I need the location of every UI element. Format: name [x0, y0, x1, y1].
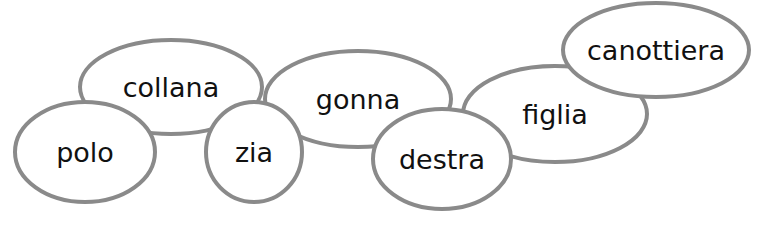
bubble-polo: polo — [15, 102, 155, 202]
bubble-label: zia — [235, 137, 273, 168]
bubble-label: destra — [399, 144, 485, 175]
bubble-canottiera: canottiera — [563, 3, 749, 97]
word-bubble-diagram: collana polo gonna zia figlia destra can… — [0, 0, 758, 230]
bubble-label: gonna — [316, 84, 400, 115]
bubble-label: collana — [123, 72, 220, 103]
bubble-label: canottiera — [587, 35, 725, 66]
bubble-destra: destra — [373, 109, 511, 209]
bubble-label: polo — [56, 137, 114, 168]
bubble-label: figlia — [522, 99, 588, 130]
bubble-zia: zia — [206, 102, 302, 202]
